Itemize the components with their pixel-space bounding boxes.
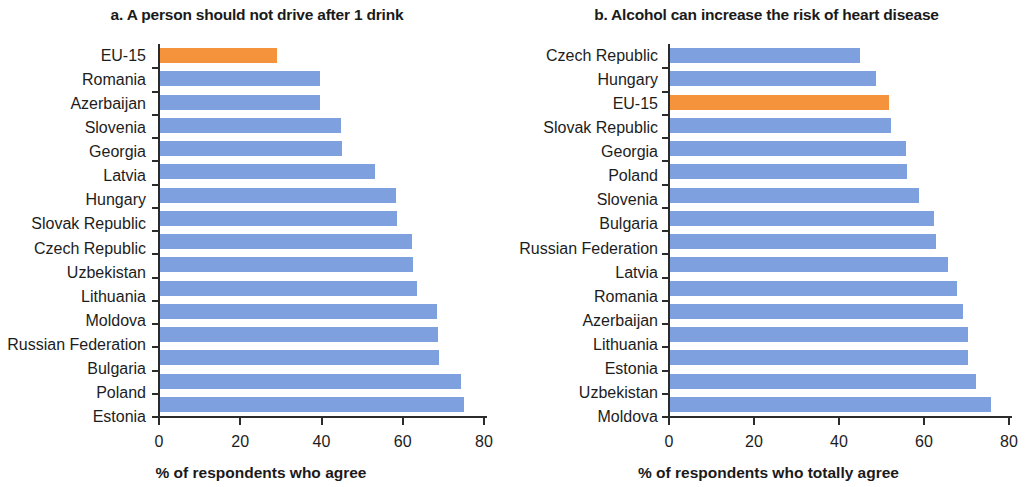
bar-row xyxy=(670,44,1025,67)
y-tick xyxy=(662,253,668,255)
category-label: Azerbaijan xyxy=(500,313,666,329)
x-tick xyxy=(753,418,755,425)
y-tick xyxy=(662,207,668,209)
bar-row xyxy=(160,91,500,114)
category-label-row: Latvia xyxy=(4,164,154,188)
bar xyxy=(160,304,437,319)
bar xyxy=(670,48,860,63)
y-tick xyxy=(152,323,158,325)
panel-a-x-axis xyxy=(158,416,487,418)
category-label: Hungary xyxy=(500,72,666,88)
x-tick xyxy=(402,418,404,425)
x-tick-label: 20 xyxy=(231,433,249,451)
category-label-row: EU-15 xyxy=(500,92,666,116)
bar xyxy=(670,188,919,203)
bar xyxy=(160,257,413,272)
category-label-row: Estonia xyxy=(500,357,666,381)
bar xyxy=(160,281,417,296)
bar-row xyxy=(670,230,1025,253)
category-label-row: Russian Federation xyxy=(500,237,666,261)
x-tick-label: 60 xyxy=(915,433,933,451)
x-tick xyxy=(668,418,670,425)
panel-a-bars xyxy=(160,44,500,416)
x-tick-label: 60 xyxy=(394,433,412,451)
x-tick-label: 80 xyxy=(475,433,493,451)
category-label: Azerbaijan xyxy=(4,96,154,112)
x-tick-label: 20 xyxy=(745,433,763,451)
category-label-row: Hungary xyxy=(500,68,666,92)
category-label: Lithuania xyxy=(4,289,154,305)
category-label-row: Georgia xyxy=(500,140,666,164)
bar xyxy=(670,374,976,389)
bar-row xyxy=(670,207,1025,230)
bar xyxy=(670,141,906,156)
category-label: Latvia xyxy=(4,168,154,184)
category-label: Moldova xyxy=(4,313,154,329)
y-tick xyxy=(662,184,668,186)
y-tick xyxy=(662,67,668,69)
bar xyxy=(670,164,907,179)
bar xyxy=(670,211,934,226)
bar xyxy=(160,211,397,226)
bar xyxy=(670,397,991,412)
category-label-row: Slovak Republic xyxy=(4,212,154,236)
y-tick xyxy=(662,346,668,348)
panel-b-x-axis xyxy=(668,416,1012,418)
x-tick xyxy=(838,418,840,425)
y-tick xyxy=(152,300,158,302)
category-label-row: Romania xyxy=(4,68,154,92)
category-label: Estonia xyxy=(500,361,666,377)
category-label: Georgia xyxy=(500,144,666,160)
chart-panel-a: a. A person should not drive after 1 dri… xyxy=(0,0,500,487)
bar-row xyxy=(160,253,500,276)
category-label: Poland xyxy=(4,385,154,401)
category-label-row: Poland xyxy=(4,381,154,405)
category-label-row: Uzbekistan xyxy=(500,381,666,405)
category-label-row: Romania xyxy=(500,285,666,309)
bar-row xyxy=(160,114,500,137)
category-label: Uzbekistan xyxy=(4,265,154,281)
category-label: Slovak Republic xyxy=(4,216,154,232)
category-label: Bulgaria xyxy=(4,361,154,377)
x-tick-label: 80 xyxy=(1000,433,1018,451)
bar-row xyxy=(670,67,1025,90)
bar xyxy=(160,118,341,133)
y-tick xyxy=(152,184,158,186)
y-tick xyxy=(662,393,668,395)
bar-row xyxy=(160,184,500,207)
panel-b-axes: 020406080 xyxy=(668,44,1025,429)
bar-highlight xyxy=(160,48,277,63)
y-tick xyxy=(662,137,668,139)
category-label-row: Lithuania xyxy=(500,333,666,357)
bar xyxy=(160,234,412,249)
x-tick xyxy=(239,418,241,425)
y-tick xyxy=(152,253,158,255)
bar xyxy=(670,257,948,272)
panel-b-category-labels: Czech RepublicHungaryEU-15Slovak Republi… xyxy=(500,44,666,429)
bar-row xyxy=(160,137,500,160)
category-label: Lithuania xyxy=(500,337,666,353)
chart-panel-b: b. Alcohol can increase the risk of hear… xyxy=(500,0,1027,487)
bar-row xyxy=(160,300,500,323)
y-tick xyxy=(152,393,158,395)
category-label-row: Lithuania xyxy=(4,285,154,309)
bar-row xyxy=(670,137,1025,160)
category-label: Russian Federation xyxy=(500,241,666,257)
bar xyxy=(670,281,957,296)
y-tick xyxy=(152,346,158,348)
bar-row xyxy=(160,160,500,183)
category-label: Czech Republic xyxy=(4,241,154,257)
y-tick xyxy=(662,323,668,325)
x-tick-label: 40 xyxy=(830,433,848,451)
category-label-row: Slovak Republic xyxy=(500,116,666,140)
bar xyxy=(670,71,876,86)
category-label-row: Azerbaijan xyxy=(4,92,154,116)
bar-highlight xyxy=(670,95,889,110)
category-label: Latvia xyxy=(500,265,666,281)
panel-b-plot: Czech RepublicHungaryEU-15Slovak Republi… xyxy=(500,44,1027,429)
category-label: Slovenia xyxy=(500,192,666,208)
category-label-row: Bulgaria xyxy=(4,357,154,381)
bar-row xyxy=(670,160,1025,183)
category-label-row: Hungary xyxy=(4,188,154,212)
x-tick xyxy=(483,418,485,425)
